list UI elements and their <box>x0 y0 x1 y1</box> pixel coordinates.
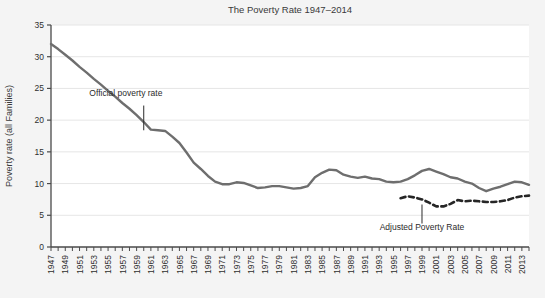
x-tick-label: 2009 <box>489 255 499 274</box>
x-tick-label: 1983 <box>303 255 313 274</box>
x-tick-label: 1949 <box>60 255 70 274</box>
x-tick-label: 1969 <box>203 255 213 274</box>
annotation-label-adjusted-poverty-rate: Adjusted Poverty Rate <box>380 222 465 232</box>
x-tick-label: 1959 <box>132 255 142 274</box>
x-tick-label: 1993 <box>374 255 384 274</box>
x-tick-label: 1977 <box>260 255 270 274</box>
x-tick-label: 1999 <box>417 255 427 274</box>
x-tick-label: 1957 <box>118 255 128 274</box>
x-tick-label: 2001 <box>431 255 441 274</box>
plot-area-background <box>51 25 529 247</box>
x-tick-label: 1975 <box>246 255 256 274</box>
y-tick-label: 20 <box>35 115 45 125</box>
x-tick-label: 1981 <box>289 255 299 274</box>
chart-figure: The Poverty Rate 1947–2014 Poverty rate … <box>0 0 545 298</box>
x-tick-label: 1953 <box>89 255 99 274</box>
poverty-rate-line-chart: The Poverty Rate 1947–2014 Poverty rate … <box>0 0 545 298</box>
x-tick-label: 1971 <box>217 255 227 274</box>
x-tick-label: 1965 <box>175 255 185 274</box>
x-tick-label: 1989 <box>346 255 356 274</box>
y-tick-label: 5 <box>39 210 44 220</box>
y-tick-label: 30 <box>35 52 45 62</box>
x-tick-label: 2003 <box>446 255 456 274</box>
x-tick-label: 1987 <box>332 255 342 274</box>
x-tick-label: 1973 <box>232 255 242 274</box>
chart-title: The Poverty Rate 1947–2014 <box>228 4 352 15</box>
x-tick-label: 1951 <box>75 255 85 274</box>
x-tick-label: 1979 <box>274 255 284 274</box>
y-tick-label: 35 <box>35 20 45 30</box>
x-tick-label: 1955 <box>103 255 113 274</box>
x-tick-label: 1947 <box>46 255 56 274</box>
x-tick-label: 2007 <box>474 255 484 274</box>
x-tick-label: 2013 <box>517 255 527 274</box>
annotation-label-official-poverty-rate: Official poverty rate <box>89 88 162 98</box>
y-tick-label: 10 <box>35 179 45 189</box>
y-tick-label: 25 <box>35 83 45 93</box>
x-tick-label: 1985 <box>317 255 327 274</box>
x-tick-label: 1963 <box>160 255 170 274</box>
x-tick-label: 1967 <box>189 255 199 274</box>
y-tick-label: 0 <box>39 242 44 252</box>
y-tick-label: 15 <box>35 147 45 157</box>
x-tick-label: 1995 <box>389 255 399 274</box>
x-tick-label: 2005 <box>460 255 470 274</box>
x-tick-label: 1961 <box>146 255 156 274</box>
x-tick-label: 1991 <box>360 255 370 274</box>
y-axis-label: Poverty rate (all Families) <box>4 85 14 187</box>
x-tick-label: 2011 <box>503 255 513 274</box>
x-tick-label: 1997 <box>403 255 413 274</box>
